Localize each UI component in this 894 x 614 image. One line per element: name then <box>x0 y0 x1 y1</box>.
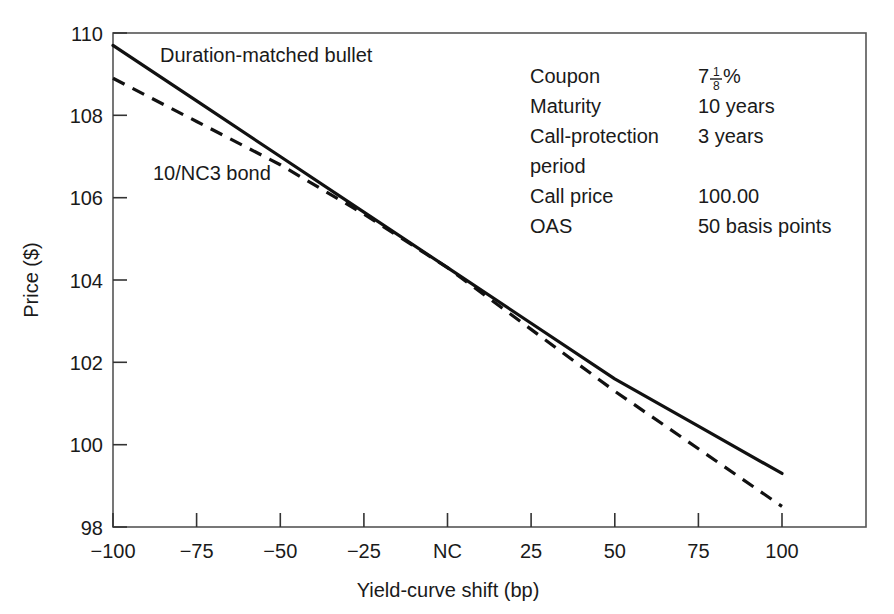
x-axis-title: Yield-curve shift (bp) <box>357 579 540 601</box>
y-tick-labels: 110 108 106 104 102 100 98 <box>70 23 103 539</box>
y-tick-label: 108 <box>70 105 103 127</box>
x-tick-label: −100 <box>90 540 135 562</box>
y-tick-label: 98 <box>81 517 103 539</box>
annotation-value-coupon-denominator: 8 <box>713 79 720 93</box>
x-tick-labels: −100 −75 −50 −25 NC 25 50 75 100 <box>90 540 798 562</box>
x-tick-label: 50 <box>604 540 626 562</box>
x-tick-label: −75 <box>180 540 214 562</box>
annotation-value-call-price: 100.00 <box>698 185 759 207</box>
x-tick-label: 100 <box>765 540 798 562</box>
annotation-value-coupon-numerator: 1 <box>713 65 720 79</box>
series-label-10-nc3-bond: 10/NC3 bond <box>153 162 271 184</box>
annotation-value-coupon: 7 <box>698 65 709 87</box>
x-tick-label: −50 <box>263 540 297 562</box>
annotation-label-period: period <box>530 155 586 177</box>
y-tick-label: 106 <box>70 187 103 209</box>
x-axis-ticks <box>113 513 782 527</box>
annotation-label-coupon: Coupon <box>530 65 600 87</box>
annotation-label-oas: OAS <box>530 215 572 237</box>
series-line-duration-matched-bullet <box>113 45 782 473</box>
chart-canvas: 110 108 106 104 102 100 98 −100 −75 −50 … <box>0 0 894 614</box>
annotation-label-call-price: Call price <box>530 185 613 207</box>
y-tick-label: 104 <box>70 270 103 292</box>
x-tick-label: NC <box>433 540 462 562</box>
annotation-label-maturity: Maturity <box>530 95 601 117</box>
y-axis-ticks <box>113 33 127 527</box>
annotation-value-oas: 50 basis points <box>698 215 831 237</box>
x-tick-label: 25 <box>520 540 542 562</box>
chart-figure: 110 108 106 104 102 100 98 −100 −75 −50 … <box>0 0 894 614</box>
y-tick-label: 102 <box>70 352 103 374</box>
y-tick-label: 110 <box>71 23 103 45</box>
series-label-duration-matched-bullet: Duration-matched bullet <box>160 44 373 66</box>
annotation-value-call-protection: 3 years <box>698 125 764 147</box>
annotation-value-maturity: 10 years <box>698 95 775 117</box>
y-axis-title: Price ($) <box>20 242 42 318</box>
annotation-label-call-protection: Call-protection <box>530 125 659 147</box>
x-tick-label: 75 <box>687 540 709 562</box>
x-tick-label: −25 <box>347 540 381 562</box>
annotation-value-coupon-suffix: % <box>723 65 741 87</box>
annotation-table: Coupon 7 1 8 % Maturity 10 years Call-pr… <box>530 65 831 237</box>
y-tick-label: 100 <box>70 434 103 456</box>
series-line-10-nc3-bond <box>113 78 782 506</box>
